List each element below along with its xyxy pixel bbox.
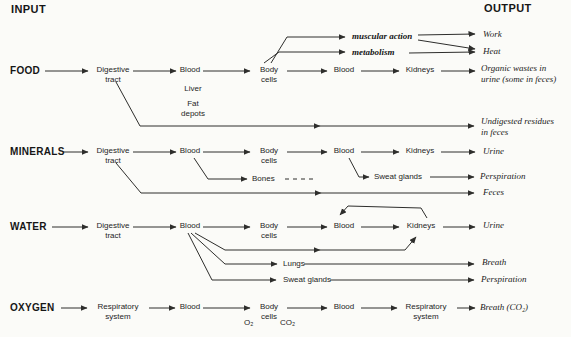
bones-node: Bones bbox=[252, 174, 275, 184]
minerals-body-cells-node: Body cells bbox=[260, 146, 278, 166]
food-digestive-tract-node: Digestive tract bbox=[97, 65, 130, 85]
minerals-perspiration-output: Perspiration bbox=[480, 171, 526, 182]
work-output: Work bbox=[483, 29, 502, 40]
food-source-label: FOOD bbox=[10, 65, 40, 77]
water-urine-output: Urine bbox=[483, 220, 504, 231]
heat-output: Heat bbox=[483, 46, 501, 57]
oxygen-respiratory-1-node: Respiratory system bbox=[98, 302, 139, 322]
metabolism-node: metabolism bbox=[352, 47, 395, 58]
food-body-cells-node: Body cells bbox=[260, 65, 278, 85]
water-kidneys-node: Kidneys bbox=[407, 221, 435, 231]
muscular-action-node: muscular action bbox=[352, 31, 412, 42]
output-title: OUTPUT bbox=[484, 2, 532, 15]
oxygen-blood-2-node: Blood bbox=[334, 302, 354, 312]
water-blood-1-node: Blood bbox=[180, 221, 200, 231]
breath-output: Breath bbox=[482, 257, 506, 268]
food-blood-2-node: Blood bbox=[334, 65, 354, 75]
food-kidneys-node: Kidneys bbox=[406, 65, 434, 75]
water-sweat-glands-node: Sweat glands bbox=[283, 275, 331, 285]
water-perspiration-output: Perspiration bbox=[481, 274, 527, 285]
co2-label: CO₂ bbox=[280, 318, 295, 328]
minerals-source-label: MINERALS bbox=[10, 146, 65, 158]
breath-co2-output: Breath (CO₂) bbox=[480, 302, 528, 313]
oxygen-respiratory-2-node: Respiratory system bbox=[406, 302, 447, 322]
minerals-digestive-tract-node: Digestive tract bbox=[97, 146, 130, 166]
undigested-residues-output: Undigested residues in feces bbox=[481, 116, 554, 138]
water-source-label: WATER bbox=[10, 221, 47, 233]
minerals-kidneys-node: Kidneys bbox=[406, 146, 434, 156]
water-blood-2-node: Blood bbox=[334, 221, 354, 231]
liver-node: Liver bbox=[184, 84, 201, 94]
water-body-cells-node: Body cells bbox=[260, 221, 278, 241]
lungs-node: Lungs bbox=[283, 259, 305, 269]
input-title: INPUT bbox=[11, 3, 46, 16]
oxygen-blood-1-node: Blood bbox=[180, 302, 200, 312]
oxygen-body-cells-node: Body cells bbox=[260, 302, 278, 322]
feces-output: Feces bbox=[483, 187, 504, 198]
metabolic-flow-diagram: INPUT OUTPUT FOOD Digestive tract Blood … bbox=[0, 0, 571, 337]
minerals-sweat-glands-node: Sweat glands bbox=[374, 172, 422, 182]
minerals-blood-1-node: Blood bbox=[180, 146, 200, 156]
water-digestive-tract-node: Digestive tract bbox=[97, 221, 130, 241]
organic-wastes-output: Organic wastes in urine (some in feces) bbox=[481, 63, 556, 85]
water-row-lines bbox=[52, 206, 475, 280]
fat-depots-node: Fat depots bbox=[181, 99, 205, 119]
food-blood-1-node: Blood bbox=[180, 65, 200, 75]
oxygen-source-label: OXYGEN bbox=[10, 302, 55, 314]
minerals-blood-2-node: Blood bbox=[334, 146, 354, 156]
minerals-urine-output: Urine bbox=[483, 146, 504, 157]
o2-label: O₂ bbox=[244, 318, 253, 328]
